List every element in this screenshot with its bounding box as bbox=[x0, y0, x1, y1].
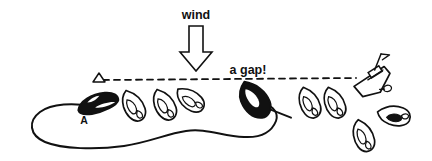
boat-fleet-2 bbox=[118, 86, 149, 124]
start-line bbox=[103, 78, 356, 80]
boat-gap bbox=[233, 70, 291, 135]
boat-fleet-6 bbox=[295, 84, 324, 121]
boat-fleet-3 bbox=[149, 85, 180, 123]
triangle-mark-icon bbox=[93, 73, 105, 82]
arrow-down-icon bbox=[180, 26, 212, 71]
diagram-canvas: wind a gap! A bbox=[0, 0, 432, 161]
sailing-start-diagram: wind a gap! A bbox=[0, 0, 432, 161]
boat-a-label: A bbox=[80, 114, 88, 126]
gap-label: a gap! bbox=[230, 63, 267, 77]
fleet-outline-curve bbox=[32, 104, 277, 148]
boat-over-line-9 bbox=[349, 117, 377, 154]
boat-fleet-7 bbox=[320, 84, 349, 121]
wind-label: wind bbox=[181, 8, 210, 22]
committee-boat-icon bbox=[348, 52, 398, 99]
boat-over-line-8 bbox=[375, 102, 412, 129]
